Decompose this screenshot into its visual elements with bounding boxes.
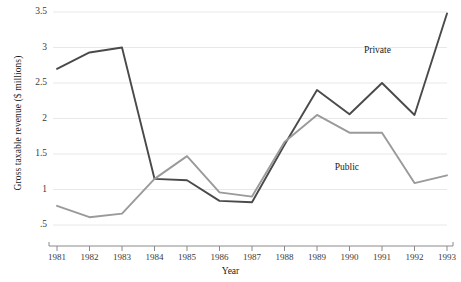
x-axis-title: Year — [0, 266, 461, 276]
x-tick-label: 1993 — [427, 253, 461, 262]
y-tick-label: 2.5 — [21, 78, 47, 88]
gridlines — [53, 12, 447, 225]
y-tick-label: 1 — [21, 185, 47, 195]
x-axis — [49, 242, 453, 251]
series-label-private: Private — [364, 45, 391, 55]
y-tick-label: 3 — [21, 43, 47, 53]
data-series-lines — [57, 13, 447, 217]
series-label-public: Public — [335, 162, 359, 172]
y-tick-label: 1.5 — [21, 149, 47, 159]
y-tick-label: 3.5 — [21, 7, 47, 17]
y-tick-label: .5 — [21, 220, 47, 230]
series-line-private — [57, 13, 447, 202]
plot-area — [0, 0, 461, 282]
line-chart: Gross taxable revenue ($ millions) .511.… — [0, 0, 461, 282]
y-tick-label: 2 — [21, 114, 47, 124]
